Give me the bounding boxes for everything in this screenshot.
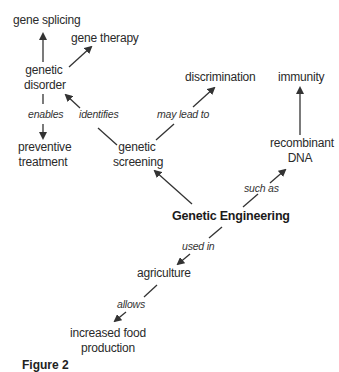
node-label-line2: disorder bbox=[24, 78, 64, 93]
node-label-line1: genetic bbox=[24, 63, 64, 78]
node-label: discrimination bbox=[185, 70, 256, 84]
node-gene-splicing: gene splicing bbox=[13, 13, 80, 28]
link-label-allows: allows bbox=[117, 298, 145, 310]
edge-ge-to-agriculture-upper bbox=[209, 227, 222, 238]
edge-agriculture-to-food-upper bbox=[144, 285, 157, 297]
node-label-line2: treatment bbox=[18, 155, 68, 170]
node-agriculture: agriculture bbox=[137, 266, 191, 281]
node-genetic-engineering: Genetic Engineering bbox=[172, 209, 290, 224]
edge-screening-to-disorder-upper bbox=[66, 95, 80, 108]
node-label-line1: preventive bbox=[18, 140, 68, 155]
edge-screening-to-discrimination-lower bbox=[156, 124, 174, 140]
edge-disorder-to-therapy bbox=[69, 47, 91, 67]
node-label-line1: genetic bbox=[113, 140, 161, 155]
node-discrimination: discrimination bbox=[185, 70, 256, 85]
node-gene-therapy: gene therapy bbox=[71, 31, 139, 46]
edge-ge-to-agriculture-lower bbox=[178, 254, 190, 264]
link-label-may-lead-to: may lead to bbox=[157, 108, 209, 120]
link-label-enables: enables bbox=[28, 108, 63, 120]
node-immunity: immunity bbox=[278, 70, 324, 85]
node-label: gene therapy bbox=[71, 31, 139, 45]
node-genetic-disorder: genetic disorder bbox=[24, 63, 64, 93]
figure-caption: Figure 2 bbox=[22, 358, 69, 372]
node-label: Genetic Engineering bbox=[172, 209, 290, 223]
link-label-used-in: used in bbox=[182, 240, 214, 252]
node-label: agriculture bbox=[137, 266, 191, 280]
node-genetic-screening: genetic screening bbox=[113, 140, 161, 170]
edge-ge-to-dna-lower bbox=[243, 194, 258, 207]
edge-ge-to-screening bbox=[155, 171, 192, 204]
node-label: immunity bbox=[278, 70, 324, 84]
edge-screening-to-discrimination-upper bbox=[193, 88, 214, 107]
node-recombinant-dna: recombinant DNA bbox=[270, 136, 330, 166]
link-label-identifies: identifies bbox=[79, 108, 118, 120]
node-label-line1: increased food bbox=[68, 326, 148, 341]
node-preventive-treatment: preventive treatment bbox=[18, 140, 68, 170]
node-label-line2: DNA bbox=[270, 151, 330, 166]
node-label-line1: recombinant bbox=[270, 136, 330, 151]
edge-agriculture-to-food-lower bbox=[115, 312, 126, 321]
node-increased-food-production: increased food production bbox=[68, 326, 148, 356]
node-label-line2: production bbox=[68, 341, 148, 356]
node-label: gene splicing bbox=[13, 13, 80, 27]
node-label-line2: screening bbox=[113, 155, 161, 170]
link-label-such-as: such as bbox=[244, 182, 279, 194]
